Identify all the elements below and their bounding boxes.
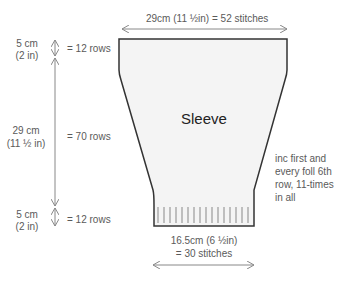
bottom-width-label-2: = 30 stitches [154,248,254,260]
sleeve-outline [119,39,287,226]
cuff-height-bottom-cm: 5 cm [12,209,42,221]
shaping-note-4: in all [275,192,296,204]
body-height-rows: = 70 rows [67,131,111,143]
shaping-note-2: every foll 6th [275,166,332,178]
top-width-label: 29cm (11 ½in) = 52 stitches [146,13,268,25]
shaping-note-1: inc first and [275,153,326,165]
piece-title: Sleeve [181,110,227,127]
cuff-height-bottom-rows: = 12 rows [67,214,111,226]
cuff-height-top-rows: = 12 rows [67,43,111,55]
cuff-height-bottom-in: (2 in) [10,221,44,233]
body-height-in: (11 ½ in) [2,138,50,150]
shaping-note-3: row, 11-times [275,179,334,191]
body-height-cm: 29 cm [4,125,48,137]
bottom-width-label-1: 16.5cm (6 ½in) [154,235,254,247]
cuff-height-top-cm: 5 cm [12,38,42,50]
cuff-height-top-in: (2 in) [10,50,44,62]
